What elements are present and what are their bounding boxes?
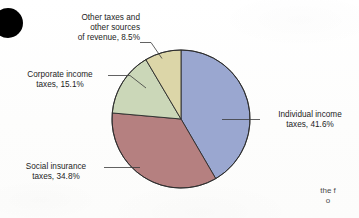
pie-label-corporate-line2: taxes, 15.1% bbox=[14, 80, 106, 90]
pie-label-other: Other taxes and other sources of revenue… bbox=[36, 13, 140, 44]
cropped-body-text-line1: the f bbox=[320, 186, 336, 195]
pie-label-social-line2: taxes, 34.8% bbox=[10, 172, 102, 182]
pie-label-other-line3: of revenue, 8.5% bbox=[36, 33, 140, 43]
pie-label-individual: Individual income taxes, 41.6% bbox=[262, 110, 358, 130]
pie-label-corporate-line1: Corporate income bbox=[14, 70, 106, 80]
pie-label-social-line1: Social insurance bbox=[10, 162, 102, 172]
pie-label-individual-line1: Individual income bbox=[262, 110, 358, 120]
cropped-body-text-line2: o bbox=[300, 196, 356, 206]
black-dot-icon bbox=[0, 8, 23, 38]
pie-label-social: Social insurance taxes, 34.8% bbox=[10, 162, 102, 182]
pie-label-corporate: Corporate income taxes, 15.1% bbox=[14, 70, 106, 90]
pie-label-other-line1: Other taxes and bbox=[36, 13, 140, 23]
pie-label-individual-line2: taxes, 41.6% bbox=[262, 120, 358, 130]
figure-page: Other taxes and other sources of revenue… bbox=[0, 0, 359, 218]
cropped-body-text: the f o bbox=[300, 186, 356, 206]
pie-label-other-line2: other sources bbox=[36, 23, 140, 33]
